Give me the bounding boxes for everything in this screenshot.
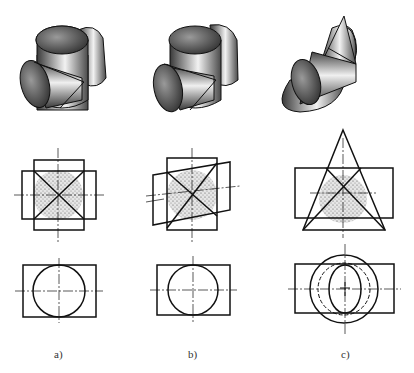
label-c: c) <box>341 348 350 361</box>
label-a: a) <box>54 348 63 361</box>
figure-canvas: a) b) c) <box>0 0 414 373</box>
top-view-b <box>150 256 237 322</box>
label-b: b) <box>188 348 198 361</box>
top-view-a <box>15 258 103 323</box>
iso-view-a <box>15 26 106 111</box>
top-view-c <box>288 244 401 334</box>
iso-view-b <box>149 25 238 115</box>
front-view-b <box>146 148 240 242</box>
front-view-c <box>295 130 393 238</box>
iso-view-c <box>282 16 357 112</box>
front-view-a <box>14 148 104 242</box>
